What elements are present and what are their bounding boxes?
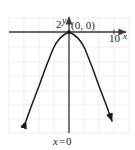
graph-canvas: [0, 0, 135, 150]
parabola-graph-figure: y x 2 10 (0, 0) x=0: [0, 0, 135, 150]
axis-of-symmetry-equals: =: [58, 135, 66, 147]
axis-of-symmetry-label: x=0: [53, 136, 72, 147]
x-axis-tick-label-10: 10: [109, 33, 120, 44]
axis-of-symmetry-value: 0: [66, 135, 72, 147]
y-axis-label: y: [62, 16, 66, 26]
vertex-coordinate-label: (0, 0): [71, 20, 95, 31]
y-axis-tick-label-2: 2: [56, 19, 62, 30]
x-axis-label: x: [123, 32, 127, 41]
